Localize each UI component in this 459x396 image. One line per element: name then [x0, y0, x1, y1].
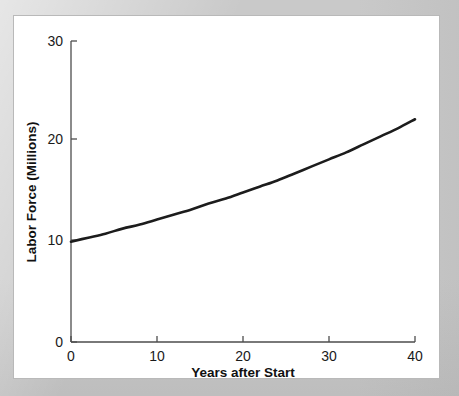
- x-tick-label-10: 10: [149, 348, 165, 364]
- y-tick-label-10: 10: [47, 232, 63, 248]
- x-tick-label-group: 0 10 20 30 40: [67, 348, 423, 364]
- x-tick-label-30: 30: [321, 348, 337, 364]
- figure-root: 30 20 10 0 0 10 20 30 40 Y: [0, 0, 459, 396]
- y-axis-title: Labor Force (Millions): [24, 121, 39, 262]
- x-tick-label-40: 40: [407, 348, 423, 364]
- y-tick-label-20: 20: [47, 131, 63, 147]
- x-tick-group: [71, 336, 415, 342]
- line-chart: 30 20 10 0 0 10 20 30 40 Y: [14, 16, 439, 378]
- y-tick-group: [71, 41, 77, 342]
- y-tick-label-0: 0: [55, 334, 63, 350]
- x-tick-label-0: 0: [67, 348, 75, 364]
- data-series-labor-force: [71, 119, 415, 241]
- y-tick-label-30: 30: [47, 33, 63, 49]
- x-axis-title: Years after Start: [191, 365, 295, 378]
- y-tick-label-group: 30 20 10 0: [47, 33, 63, 350]
- x-tick-label-20: 20: [235, 348, 251, 364]
- chart-panel: 30 20 10 0 0 10 20 30 40 Y: [13, 15, 440, 379]
